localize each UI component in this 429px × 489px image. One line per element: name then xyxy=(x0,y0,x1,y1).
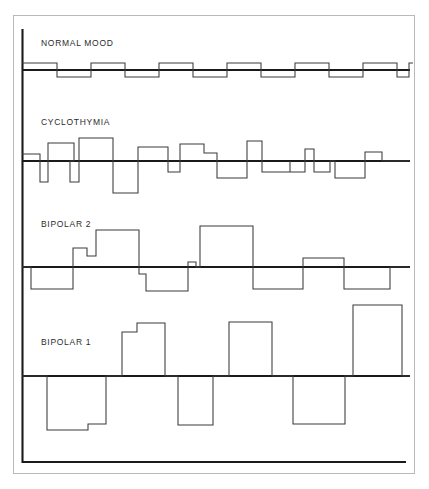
waveform-cyclothymia xyxy=(22,138,410,193)
waveform-bipolar-2 xyxy=(22,226,410,291)
series-label-bipolar-2: BIPOLAR 2 xyxy=(41,219,91,229)
waveform-bipolar-1 xyxy=(22,305,410,430)
series-label-bipolar-1: BIPOLAR 1 xyxy=(41,337,91,347)
mood-spectrum-figure: NORMAL MOOD CYCLOTHYMIA BIPOLAR 2 BIPOLA… xyxy=(0,0,429,489)
series-label-cyclothymia: CYCLOTHYMIA xyxy=(41,117,110,127)
series-bipolar-2: BIPOLAR 2 xyxy=(22,219,410,291)
series-label-normal-mood: NORMAL MOOD xyxy=(41,38,114,48)
mood-chart-svg: NORMAL MOOD CYCLOTHYMIA BIPOLAR 2 BIPOLA… xyxy=(0,0,429,489)
series-bipolar-1: BIPOLAR 1 xyxy=(22,305,410,430)
series-cyclothymia: CYCLOTHYMIA xyxy=(22,117,410,193)
series-normal-mood: NORMAL MOOD xyxy=(22,38,413,77)
